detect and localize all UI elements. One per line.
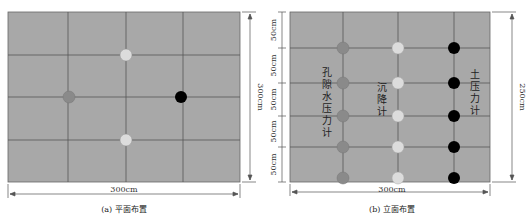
settlement-gauge-top <box>120 49 132 61</box>
settlement-gauge <box>392 141 404 153</box>
earth-pressure-gauge <box>448 77 460 89</box>
elevation-height-label: 250cm <box>518 83 527 111</box>
spacing-label: 50cm <box>269 18 278 41</box>
settlement-gauge <box>392 172 404 184</box>
spacing-label: 50cm <box>269 153 278 176</box>
pore-pressure-label: 孔隙水压力计 <box>322 67 332 138</box>
settlement-gauge <box>392 42 404 54</box>
elevation-caption: (b) 立面布置 <box>369 204 415 214</box>
earth-pressure-gauge <box>448 42 460 54</box>
spacing-label: 50cm <box>269 54 278 77</box>
elevation-width-label: 300cm <box>378 185 406 194</box>
elevation-area <box>290 12 490 182</box>
settlement-gauge-bottom <box>120 134 132 146</box>
settlement-label: 沉降计 <box>377 81 387 117</box>
earth-pressure-gauge <box>448 172 460 184</box>
plan-height-label: 300cm <box>256 83 265 111</box>
settlement-gauge <box>392 110 404 122</box>
pore-pressure-gauge <box>337 42 349 54</box>
earth-pressure-gauge <box>448 110 460 122</box>
spacing-label: 50cm <box>269 120 278 143</box>
spacing-label: 50cm <box>269 88 278 111</box>
settlement-gauge <box>392 77 404 89</box>
plan-height-dimension <box>242 12 256 182</box>
elevation-view: 孔隙水压力计 沉降计 土压力计 300cm 250cm (b) 立面布置 50c <box>269 12 527 214</box>
pore-pressure-gauge <box>337 77 349 89</box>
pore-pressure-gauge <box>337 141 349 153</box>
layout-diagram: 300cm 300cm (a) 平面布置 孔隙水压力计 <box>0 0 531 224</box>
elevation-height-dimension <box>492 12 516 182</box>
plan-view: 300cm 300cm (a) 平面布置 <box>8 12 265 214</box>
plan-caption: (a) 平面布置 <box>101 204 147 214</box>
spacing-dimensions <box>278 12 286 182</box>
pore-pressure-gauge <box>337 172 349 184</box>
earth-pressure-gauge <box>175 91 187 103</box>
pore-pressure-gauge <box>337 110 349 122</box>
pore-pressure-gauge <box>63 91 75 103</box>
plan-width-label: 300cm <box>110 185 138 194</box>
earth-pressure-gauge <box>448 141 460 153</box>
